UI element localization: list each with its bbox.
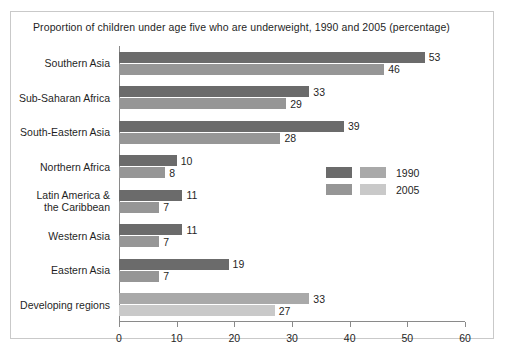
x-tick-label: 60 [459, 332, 471, 344]
bar-1990[interactable] [119, 86, 309, 97]
legend-swatch-secondary [360, 167, 386, 178]
bar-value-label: 7 [159, 270, 169, 282]
bar-value-label: 39 [344, 120, 360, 132]
x-tick-mark [407, 322, 408, 327]
bar-value-label: 8 [165, 167, 175, 179]
bar-2005[interactable] [119, 98, 286, 109]
x-tick-mark [292, 322, 293, 327]
bar-group: South-Eastern Asia3928 [119, 115, 465, 150]
bar-1990[interactable] [119, 259, 229, 270]
chart-legend: 19902005 [326, 167, 436, 213]
bar-value-label: 27 [275, 305, 291, 317]
legend-swatch-primary [326, 184, 352, 195]
x-tick-label: 50 [401, 332, 413, 344]
bar-value-label: 10 [177, 155, 193, 167]
bar-2005[interactable] [119, 202, 159, 213]
bar-2005[interactable] [119, 271, 159, 282]
x-tick-mark [234, 322, 235, 327]
x-tick-label: 0 [116, 332, 122, 344]
bar-value-label: 33 [309, 86, 325, 98]
x-tick-label: 40 [344, 332, 356, 344]
bar-value-label: 46 [384, 63, 400, 75]
bar-group: Southern Asia5346 [119, 46, 465, 81]
category-label: Sub-Saharan Africa [19, 92, 110, 104]
bar-group: Western Asia117 [119, 219, 465, 254]
bar-2005[interactable] [119, 305, 275, 316]
bar-value-label: 53 [425, 51, 441, 63]
category-label: Latin America &the Caribbean [36, 189, 110, 213]
category-label: Eastern Asia [51, 264, 110, 276]
bar-1990[interactable] [119, 224, 182, 235]
bar-1990[interactable] [119, 155, 177, 166]
x-tick-label: 20 [228, 332, 240, 344]
x-tick-mark [465, 322, 466, 327]
x-tick-mark [177, 322, 178, 327]
legend-swatch-primary [326, 167, 352, 178]
bar-value-label: 7 [159, 236, 169, 248]
category-label: Developing regions [20, 299, 110, 311]
category-label: South-Eastern Asia [20, 126, 110, 138]
bar-value-label: 7 [159, 201, 169, 213]
legend-entry[interactable]: 1990 [326, 167, 419, 178]
x-tick-label: 10 [171, 332, 183, 344]
bar-2005[interactable] [119, 236, 159, 247]
bar-group: Sub-Saharan Africa3329 [119, 81, 465, 116]
bar-value-label: 11 [182, 189, 197, 201]
bar-value-label: 19 [229, 258, 245, 270]
bar-1990[interactable] [119, 293, 309, 304]
bar-value-label: 28 [280, 132, 296, 144]
bar-group: Developing regions3327 [119, 288, 465, 323]
bar-value-label: 29 [286, 98, 302, 110]
bar-1990[interactable] [119, 52, 425, 63]
bar-1990[interactable] [119, 190, 182, 201]
bar-1990[interactable] [119, 121, 344, 132]
legend-label: 2005 [396, 184, 419, 196]
bar-2005[interactable] [119, 133, 280, 144]
chart-figure: Proportion of children under age five wh… [10, 11, 494, 339]
x-tick-label: 30 [286, 332, 298, 344]
x-tick-mark [350, 322, 351, 327]
legend-swatch-secondary [360, 184, 386, 195]
bar-2005[interactable] [119, 167, 165, 178]
category-label: Western Asia [48, 230, 110, 242]
bar-group: Eastern Asia197 [119, 253, 465, 288]
category-label: Southern Asia [45, 57, 110, 69]
x-tick-mark [119, 322, 120, 327]
legend-entry[interactable]: 2005 [326, 184, 419, 195]
bar-value-label: 11 [182, 224, 197, 236]
bar-value-label: 33 [309, 293, 325, 305]
bar-2005[interactable] [119, 64, 384, 75]
legend-label: 1990 [396, 167, 419, 179]
category-label: Northern Africa [40, 161, 110, 173]
page-title: Proportion of children under age five wh… [33, 21, 450, 33]
